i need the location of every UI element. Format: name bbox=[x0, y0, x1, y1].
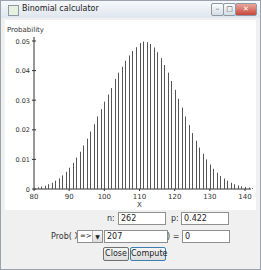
title-bar[interactable]: Binomial calculator – □ ✕ bbox=[1, 1, 260, 18]
x-tick-label: 130 bbox=[203, 193, 216, 201]
app-icon bbox=[8, 5, 19, 16]
x-tick-label: 90 bbox=[65, 193, 74, 201]
result-field: 0 bbox=[182, 230, 230, 243]
prob-label: Prob( X bbox=[51, 232, 80, 241]
n-input[interactable]: 262 bbox=[118, 212, 166, 225]
x-input[interactable]: 207 bbox=[104, 230, 168, 243]
y-axis-label: Probability bbox=[7, 26, 44, 34]
chevron-down-icon: ▼ bbox=[92, 231, 102, 242]
y-tick-label: 0.04 bbox=[16, 67, 30, 75]
probability-chart: Probability00.010.020.030.040.0580901001… bbox=[5, 20, 256, 210]
chart-svg: Probability00.010.020.030.040.0580901001… bbox=[5, 20, 256, 210]
x-tick-label: 100 bbox=[98, 193, 111, 201]
close-button[interactable]: Close bbox=[103, 247, 129, 261]
minimize-icon: – bbox=[212, 4, 223, 15]
x-tick-label: 140 bbox=[238, 193, 251, 201]
window-title: Binomial calculator bbox=[22, 4, 99, 13]
binomial-calculator-window: Binomial calculator – □ ✕ Probability00.… bbox=[0, 0, 261, 270]
close-window-button[interactable]: ✕ bbox=[235, 3, 257, 16]
y-tick-label: 0.02 bbox=[16, 126, 30, 134]
y-tick-label: 0.01 bbox=[16, 156, 30, 164]
y-tick-label: 0.05 bbox=[16, 38, 30, 46]
equals-label: ) = bbox=[167, 232, 179, 241]
x-tick-label: 120 bbox=[168, 193, 181, 201]
operator-value: => bbox=[78, 232, 92, 240]
x-tick-label: 80 bbox=[30, 193, 39, 201]
compute-button[interactable]: Compute bbox=[130, 247, 166, 261]
close-icon: ✕ bbox=[236, 4, 256, 15]
content-area: Probability00.010.020.030.040.0580901001… bbox=[5, 20, 256, 265]
operator-select[interactable]: => ▼ bbox=[77, 230, 103, 243]
x-tick-label: 110 bbox=[133, 193, 146, 201]
maximize-icon: □ bbox=[224, 4, 235, 15]
y-tick-label: 0.03 bbox=[16, 97, 30, 105]
n-label: n: bbox=[107, 214, 115, 223]
p-label: p: bbox=[171, 214, 179, 223]
x-axis-label: X bbox=[137, 201, 142, 209]
p-input[interactable]: 0.422 bbox=[181, 212, 229, 225]
